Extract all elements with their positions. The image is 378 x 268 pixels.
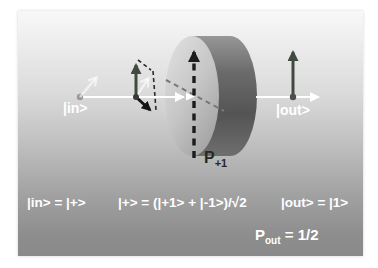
- equation-probability-subscript: out: [265, 235, 281, 246]
- projector-label-subscript: +1: [215, 157, 228, 169]
- out-state-label: |out>: [276, 103, 310, 117]
- decomposition-dashed-line-side: [153, 71, 156, 110]
- slide-background: |in> |out> P+1 |in> = |+> |+> = (|+1> + …: [18, 11, 363, 256]
- output-state-dot: [290, 94, 296, 100]
- projector-label-base: P: [204, 149, 215, 166]
- equation-probability-base: P: [255, 226, 265, 243]
- equation-superposition: |+> = (|+1> + |-1>)/√2: [118, 196, 247, 210]
- equation-output: |out> = |1>: [281, 196, 348, 210]
- in-state-label: |in>: [63, 101, 88, 115]
- input-ghost-arrow: [80, 78, 96, 97]
- equation-probability-rest: = 1/2: [281, 226, 319, 243]
- projector-label: P+1: [204, 150, 227, 169]
- equation-input: |in> = |+>: [27, 196, 86, 210]
- slide-canvas: |in> |out> P+1 |in> = |+> |+> = (|+1> + …: [0, 0, 378, 268]
- quantum-measurement-diagram: [18, 11, 363, 256]
- equation-probability: Pout = 1/2: [255, 227, 319, 246]
- superposition-base-dot: [133, 94, 139, 100]
- superposition-ghost-arrow: [136, 79, 148, 97]
- decomposition-dashed-line-top: [138, 60, 151, 70]
